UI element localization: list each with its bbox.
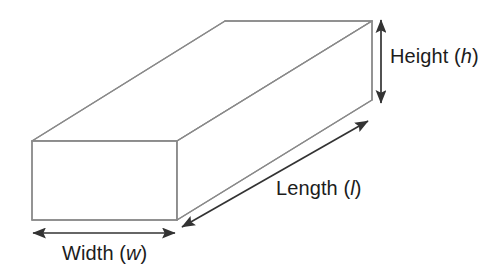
prism-diagram: Height (h) Length (l) Width (w) [0, 0, 498, 275]
height-label-text: Height [390, 45, 448, 67]
width-label-text: Width [62, 242, 114, 264]
length-label-paren-close: ) [355, 177, 362, 199]
length-dimension-label: Length (l) [276, 178, 362, 198]
height-dimension-label: Height (h) [390, 46, 479, 66]
prism-front-face [32, 141, 177, 220]
height-label-paren-open: ( [454, 45, 461, 67]
height-label-variable: h [461, 45, 472, 67]
width-dimension-label: Width (w) [62, 243, 147, 263]
width-label-variable: w [126, 242, 141, 264]
height-label-paren-close: ) [472, 45, 479, 67]
length-label-text: Length [276, 177, 338, 199]
width-label-paren-close: ) [141, 242, 148, 264]
prism-drawing-canvas [0, 0, 498, 275]
